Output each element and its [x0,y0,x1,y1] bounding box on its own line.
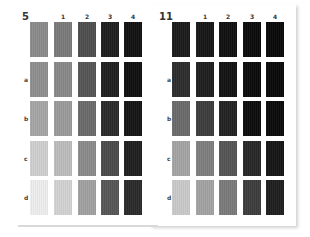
color-swatch [243,101,261,136]
color-swatch [266,141,284,176]
column-header-4: 4 [124,14,142,20]
color-swatch [101,22,119,57]
row-label-b: b [24,116,28,122]
column-header-3: 3 [101,14,119,20]
column-header-1: 1 [54,14,72,20]
color-swatch [196,62,214,97]
color-swatch [172,101,190,136]
color-swatch [266,101,284,136]
panel-label: 5 [22,12,29,22]
color-swatch [266,180,284,215]
bottom-rule [18,225,158,227]
color-swatch [101,180,119,215]
column-header-1: 1 [196,14,214,20]
color-swatch [196,22,214,57]
color-swatch [196,101,214,136]
color-swatch [101,141,119,176]
color-swatch [243,180,261,215]
color-swatch [124,101,142,136]
color-swatch [219,101,237,136]
column-header-4: 4 [266,14,284,20]
color-swatch [78,22,96,57]
color-swatch [196,141,214,176]
color-swatch [172,62,190,97]
color-swatch [266,62,284,97]
color-swatch [30,22,48,57]
color-swatch [101,62,119,97]
color-swatch [101,101,119,136]
color-swatch [124,180,142,215]
row-label-d: d [167,195,171,201]
column-header-2: 2 [219,14,237,20]
row-label-b: b [167,116,171,122]
column-header-2: 2 [78,14,96,20]
color-swatch [30,101,48,136]
panel-label: 11 [159,12,173,22]
color-swatch [78,180,96,215]
color-swatch [30,180,48,215]
row-label-a: a [167,77,171,83]
color-swatch [54,22,72,57]
color-swatch [124,141,142,176]
row-label-c: c [24,156,28,162]
color-swatch [266,22,284,57]
color-swatch [243,141,261,176]
color-swatch [243,62,261,97]
color-swatch [219,62,237,97]
color-swatch [219,141,237,176]
color-swatch [172,141,190,176]
column-header-3: 3 [243,14,261,20]
color-swatch [54,180,72,215]
color-swatch [54,62,72,97]
color-swatch [54,141,72,176]
color-swatch [172,22,190,57]
color-swatch [30,62,48,97]
color-swatch [124,62,142,97]
color-swatch [78,101,96,136]
color-swatch [30,141,48,176]
color-swatch [78,141,96,176]
color-swatch [196,180,214,215]
color-swatch [78,62,96,97]
color-swatch [172,180,190,215]
color-swatch [243,22,261,57]
color-swatch [124,22,142,57]
color-swatch [219,180,237,215]
row-label-a: a [24,77,28,83]
color-swatch [54,101,72,136]
color-swatch [219,22,237,57]
row-label-c: c [167,156,171,162]
row-label-d: d [24,195,28,201]
